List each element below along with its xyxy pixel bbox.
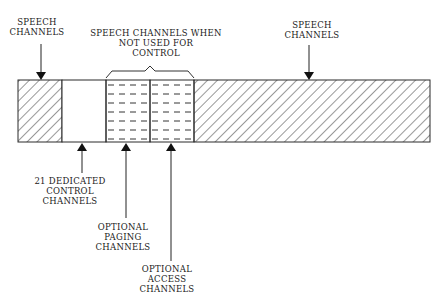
segment-optional-paging-channels	[106, 80, 150, 142]
segment-speech-channels-left	[18, 80, 62, 142]
label-dedicated-control-channels: 21 DEDICATED CONTROL CHANNELS	[34, 176, 105, 206]
arrow-up-optional-access	[166, 143, 176, 261]
label-speech-channels-right: SPEECH CHANNELS	[284, 20, 339, 40]
label-optional-paging-channels: OPTIONAL PAGING CHANNELS	[95, 222, 150, 252]
arrow-up-dedicated-control	[77, 143, 87, 173]
label-speech-channels-left: SPEECH CHANNELS	[9, 17, 64, 37]
segment-optional-access-channels	[150, 80, 194, 142]
brace	[106, 66, 194, 78]
arrow-down-speech-left	[36, 44, 46, 80]
arrow-up-optional-paging	[121, 143, 131, 218]
segment-dedicated-control-channels	[62, 80, 106, 142]
label-speech-channels-when-not-used: SPEECH CHANNELS WHEN NOT USED FOR CONTRO…	[90, 28, 222, 58]
segment-speech-channels-right	[194, 80, 430, 142]
arrow-down-speech-right	[304, 45, 314, 80]
label-optional-access-channels: OPTIONAL ACCESS CHANNELS	[139, 264, 194, 294]
